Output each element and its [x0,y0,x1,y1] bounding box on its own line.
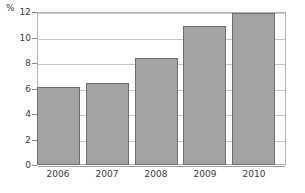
bar [135,58,178,165]
bar [232,13,275,165]
axis-baseline [38,166,285,167]
y-axis-tick-label: 12 [5,8,31,17]
bar [86,83,129,165]
y-axis-tick-label: 4 [5,110,31,119]
y-axis-tick-label: 2 [5,136,31,145]
x-axis-tick-label: 2010 [234,169,274,179]
y-axis-tick-label: 6 [5,85,31,94]
x-axis-tick-label: 2009 [185,169,225,179]
y-axis-tick-labels: 024681012 [0,0,31,193]
y-axis-tick-label: 10 [5,34,31,43]
y-axis-tick-label: 0 [5,161,31,170]
x-axis-tick-label: 2006 [38,169,78,179]
y-axis-tick [32,165,37,166]
bar-chart: % 024681012 20062007200820092010 [0,0,305,193]
x-axis-tick-label: 2008 [136,169,176,179]
bar [183,26,226,165]
x-axis-tick-label: 2007 [87,169,127,179]
bars-layer [37,12,286,165]
y-axis-tick-label: 8 [5,59,31,68]
bar [37,87,80,165]
